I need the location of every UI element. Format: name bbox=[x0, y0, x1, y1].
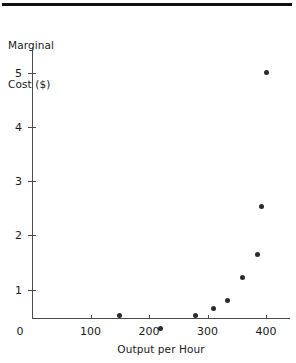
y-axis-title-line-1: Marginal bbox=[8, 39, 54, 52]
scatter-point bbox=[255, 252, 260, 257]
y-tick-label: 4 bbox=[0, 122, 22, 133]
y-axis-title: Marginal Cost ($) bbox=[8, 13, 54, 117]
y-axis-line bbox=[32, 47, 33, 319]
y-tick-label: 2 bbox=[0, 230, 22, 241]
y-tick-mark bbox=[28, 73, 36, 74]
top-divider-rule bbox=[2, 3, 292, 6]
x-tick-label: 400 bbox=[246, 326, 286, 337]
y-axis-title-line-2: Cost ($) bbox=[8, 78, 54, 91]
x-tick-mark bbox=[91, 315, 92, 319]
y-tick-label: 1 bbox=[0, 285, 22, 296]
scatter-point bbox=[211, 306, 216, 311]
y-tick-mark bbox=[28, 127, 36, 128]
y-tick-mark bbox=[28, 290, 36, 291]
x-tick-label: 300 bbox=[188, 326, 228, 337]
x-tick-mark bbox=[266, 315, 267, 319]
x-tick-label: 100 bbox=[71, 326, 111, 337]
x-axis-title: Output per Hour bbox=[32, 343, 290, 355]
x-axis-line bbox=[32, 318, 290, 319]
scatter-point bbox=[225, 298, 230, 303]
marginal-cost-scatter-figure: Marginal Cost ($) 12345 0100200300400 Ou… bbox=[0, 0, 296, 363]
x-tick-label: 0 bbox=[0, 326, 40, 337]
scatter-point bbox=[264, 70, 269, 75]
y-tick-mark bbox=[28, 235, 36, 236]
y-tick-mark bbox=[28, 181, 36, 182]
scatter-point bbox=[240, 275, 245, 280]
y-tick-label: 5 bbox=[0, 68, 22, 79]
scatter-point bbox=[259, 204, 264, 209]
y-tick-label: 3 bbox=[0, 176, 22, 187]
x-tick-mark bbox=[149, 315, 150, 319]
x-tick-mark bbox=[208, 315, 209, 319]
